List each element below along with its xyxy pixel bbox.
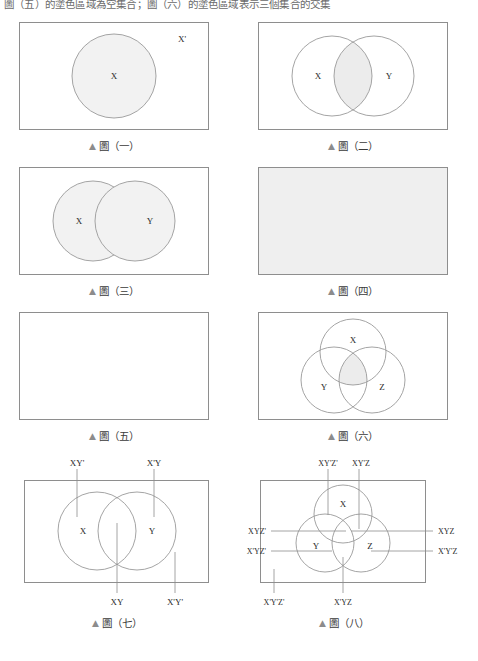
caption-triangle-icon: ▲ <box>92 618 99 628</box>
figure-5-caption-text: 圖（五） <box>99 430 139 442</box>
set-label-y: Y <box>313 541 320 551</box>
worksheet-page: 圖（五）的塗色區域為空集合；圖（六）的塗色區域表示三個集合的交集 X X' ▲圖… <box>0 0 478 661</box>
set-label-z: Z <box>379 382 385 392</box>
region-label-xyprime-z: XY'Z <box>352 459 370 468</box>
figure-6: X Y Z ▲圖（六） <box>258 312 448 420</box>
caption-triangle-icon: ▲ <box>89 141 96 151</box>
universal-set-box-shaded <box>259 168 448 275</box>
figure-6-caption: ▲圖（六） <box>258 428 448 443</box>
figure-1-caption: ▲圖（一） <box>19 138 209 153</box>
region-label-x-prime-y-prime: X'Y' <box>167 597 184 607</box>
set-label-y: Y <box>386 71 393 81</box>
figure-5-caption: ▲圖（五） <box>19 428 209 443</box>
figure-8-diagram: X Y Z XY'Z' XY'Z XYZ' X'YZ' XYZ X'Y'Z X'… <box>228 457 478 609</box>
region-label-xy: XY <box>111 597 124 607</box>
caption-triangle-icon: ▲ <box>328 431 335 441</box>
caption-triangle-icon: ▲ <box>328 141 335 151</box>
set-label-x: X <box>80 526 87 536</box>
figure-4-caption-text: 圖（四） <box>338 285 378 297</box>
figure-4: ▲圖（四） <box>258 167 448 275</box>
set-label-x: X <box>350 335 357 345</box>
caption-triangle-icon: ▲ <box>328 286 335 296</box>
region-label-xprime-yz: X'YZ <box>334 598 352 607</box>
figure-5: ▲圖（五） <box>19 312 209 420</box>
region-label-xy-prime: XY' <box>70 458 85 468</box>
figure-1-diagram: X X' <box>19 22 209 130</box>
region-label-xprime-yprime-z: X'Y'Z <box>438 547 457 556</box>
figure-1-caption-text: 圖（一） <box>99 140 139 152</box>
caption-triangle-icon: ▲ <box>89 431 96 441</box>
region-label-xyz-prime: XYZ' <box>248 527 266 536</box>
region-label-xprime-yprime-zprime: X'Y'Z' <box>264 598 285 607</box>
universal-set-box <box>25 481 209 583</box>
set-label-y: Y <box>321 382 328 392</box>
set-label-x: X <box>76 216 83 226</box>
caption-triangle-icon: ▲ <box>89 286 96 296</box>
figure-3-caption: ▲圖（三） <box>19 283 209 298</box>
figure-2-caption-text: 圖（二） <box>338 140 378 152</box>
region-label-x-prime-y: X'Y <box>147 458 162 468</box>
universal-set-box-empty <box>20 313 209 420</box>
set-label-x: X <box>111 71 118 81</box>
figure-7-caption: ▲圖（七） <box>19 615 215 630</box>
figure-5-diagram <box>19 312 209 420</box>
region-label-xyz: XYZ <box>438 527 455 536</box>
set-label-x-complement: X' <box>178 34 186 44</box>
figure-6-caption-text: 圖（六） <box>338 430 378 442</box>
figure-4-caption: ▲圖（四） <box>258 283 448 298</box>
set-label-x: X <box>315 71 322 81</box>
figure-2: X Y ▲圖（二） <box>258 22 448 130</box>
figure-6-diagram: X Y Z <box>258 312 448 420</box>
page-top-text: 圖（五）的塗色區域為空集合；圖（六）的塗色區域表示三個集合的交集 <box>4 0 474 11</box>
figure-2-diagram: X Y <box>258 22 448 130</box>
figure-3-caption-text: 圖（三） <box>99 285 139 297</box>
figure-2-caption: ▲圖（二） <box>258 138 448 153</box>
figure-8-caption-text: 圖（八） <box>329 617 369 629</box>
figure-7-diagram: X Y XY' X'Y XY X'Y' <box>19 457 215 609</box>
set-label-y: Y <box>149 526 156 536</box>
figure-8: X Y Z XY'Z' XY'Z XYZ' X'YZ' XYZ X'Y'Z X'… <box>228 457 478 609</box>
set-label-z: Z <box>367 541 373 551</box>
caption-triangle-icon: ▲ <box>319 618 326 628</box>
figure-1: X X' ▲圖（一） <box>19 22 209 130</box>
figure-7-caption-text: 圖（七） <box>102 617 142 629</box>
figure-7: X Y XY' X'Y XY X'Y' ▲圖（七） <box>19 457 215 609</box>
set-label-y: Y <box>147 216 154 226</box>
figure-3-diagram: X Y <box>19 167 209 275</box>
set-label-x: X <box>340 499 347 509</box>
set-circle-y <box>95 181 175 261</box>
figure-8-caption: ▲圖（八） <box>219 615 469 630</box>
figure-4-diagram <box>258 167 448 275</box>
region-label-xyprime-zprime: XY'Z' <box>318 459 338 468</box>
region-label-xprime-yz-prime: X'YZ' <box>247 547 267 556</box>
figure-3: X Y ▲圖（三） <box>19 167 209 275</box>
